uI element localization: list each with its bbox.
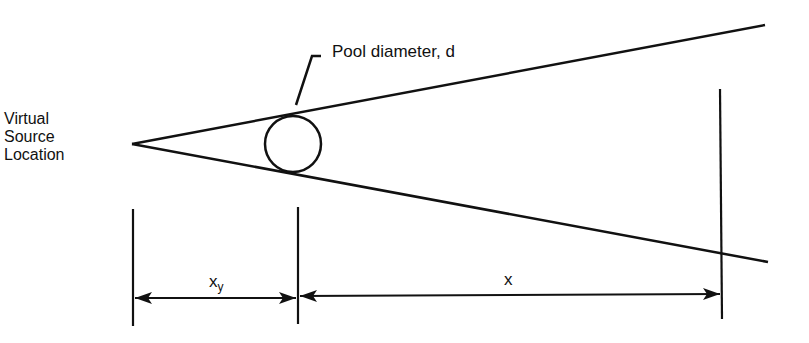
xy-distance-label: xy [209, 272, 224, 297]
virtual-source-label-line3: Location [4, 146, 114, 164]
pool-diameter-label: Pool diameter, d [332, 42, 455, 61]
xy-subscript: y [218, 280, 224, 294]
plume-lower-boundary [132, 144, 768, 262]
pool-label-leader [296, 56, 321, 105]
pool-circle [265, 116, 321, 172]
virtual-source-label: Virtual Source Location [4, 110, 114, 164]
xy-main: x [209, 272, 218, 291]
virtual-source-label-line1: Virtual [4, 110, 114, 128]
x-dimension-line [300, 294, 720, 296]
x-distance-label: x [504, 270, 513, 289]
virtual-source-label-line2: Source [4, 128, 114, 146]
tick-measurement-location [720, 89, 722, 319]
